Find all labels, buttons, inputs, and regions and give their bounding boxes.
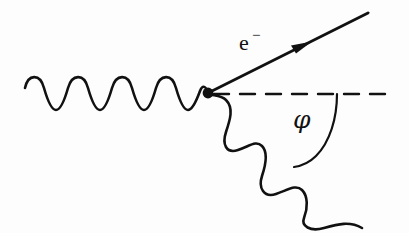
incoming-photon-wave [25,77,208,110]
feynman-diagram-canvas: e − φ [0,0,409,233]
electron-label-superscript: − [252,27,260,43]
outgoing-photon-wave [208,94,362,229]
feynman-diagram-svg: e − φ [0,0,409,233]
interaction-vertex-dot [203,88,214,99]
angle-phi-label: φ [293,105,311,134]
electron-label: e [239,30,249,55]
outgoing-electron-line [208,13,368,93]
electron-direction-arrowhead [291,42,312,54]
